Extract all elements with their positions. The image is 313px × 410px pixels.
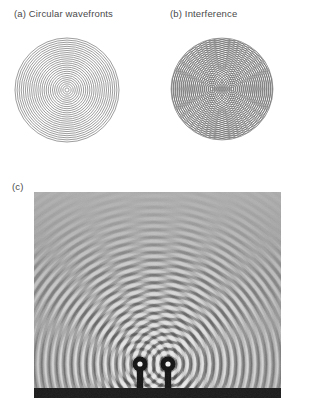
wavefront-ring xyxy=(203,60,262,119)
wavefront-ring xyxy=(36,59,98,121)
wavefront-rings xyxy=(15,38,119,142)
wavefront-ring xyxy=(42,65,92,115)
wavefront-ring xyxy=(15,38,119,142)
wavefront-ring xyxy=(48,71,85,108)
panel-b-caption: (b) Interference xyxy=(170,9,237,19)
circular-wavefronts-diagram xyxy=(14,37,120,143)
photo-grain xyxy=(34,192,281,398)
wavefront-ring xyxy=(63,86,71,94)
wavefront-ring xyxy=(23,46,110,133)
wavefront-ring xyxy=(21,44,113,136)
panel-a-circular-wavefronts xyxy=(14,37,120,143)
wavefront-ring xyxy=(57,80,78,101)
panel-a-caption: (a) Circular wavefronts xyxy=(14,9,113,19)
ripple-tank-image xyxy=(34,192,281,398)
panel-c-ripple-tank-photograph xyxy=(34,192,281,398)
wavefront-ring xyxy=(65,88,69,92)
wavefront-rings-source-2 xyxy=(170,37,274,141)
interference-clip-group xyxy=(170,37,274,141)
figure-root: (a) Circular wavefronts (b) Interference… xyxy=(0,0,313,410)
wavefront-ring xyxy=(50,73,83,106)
wavefront-ring xyxy=(30,53,105,128)
panel-b-interference xyxy=(170,37,274,141)
panel-c-caption: (c) xyxy=(12,182,24,192)
wavefront-ring xyxy=(183,60,242,119)
wavefront-ring xyxy=(27,50,106,129)
interference-diagram xyxy=(170,37,274,141)
wavefront-ring xyxy=(44,67,90,113)
